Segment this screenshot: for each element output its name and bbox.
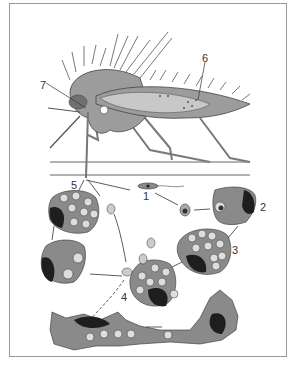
arrow-to-stage-2 bbox=[194, 209, 210, 210]
label-1: 1 bbox=[143, 191, 149, 202]
hypnozoite-cell bbox=[41, 240, 85, 283]
mosquito bbox=[46, 32, 250, 178]
arrow-to-stage-5 bbox=[52, 226, 54, 240]
stage-2-infected-cell bbox=[213, 187, 256, 225]
arrow-1-to-free bbox=[155, 193, 178, 205]
label-3: 3 bbox=[232, 245, 238, 256]
life-cycle-diagram bbox=[0, 0, 295, 368]
mosquito-eye bbox=[100, 106, 108, 114]
stage-1-sporozoite bbox=[138, 183, 184, 189]
stage-5-cell bbox=[49, 191, 99, 234]
mosquito-proboscis bbox=[86, 112, 88, 178]
stage-3-schizont bbox=[177, 229, 231, 274]
label-4: 4 bbox=[121, 292, 127, 303]
label-2: 2 bbox=[260, 202, 266, 213]
free-parasite bbox=[180, 204, 190, 216]
label-7: 7 bbox=[40, 80, 46, 91]
mosquito-antennae bbox=[48, 108, 80, 148]
label-6: 6 bbox=[202, 53, 208, 64]
arrow-2-to-3 bbox=[228, 226, 238, 238]
label-5: 5 bbox=[71, 180, 77, 191]
stage-4-cell bbox=[130, 260, 178, 306]
